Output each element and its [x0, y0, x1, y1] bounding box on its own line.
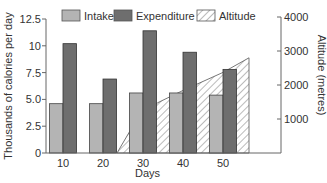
bar-intake — [210, 95, 224, 153]
bar-expenditure — [63, 44, 77, 153]
legend-item-intake: Intake — [62, 10, 114, 22]
bar-group-day-10 — [50, 44, 77, 153]
bar-expenditure — [183, 52, 197, 153]
legend-item-altitude: Altitude — [197, 10, 256, 22]
x-tick-label: 50 — [217, 157, 229, 169]
bar-group-day-30 — [130, 31, 157, 153]
legend-label: Intake — [84, 10, 114, 22]
y-axis-right-title: Altitude (metres) — [316, 35, 327, 116]
y-tick-label: 2.5 — [26, 120, 41, 132]
bar-intake — [170, 93, 184, 153]
chart-canvas: 02.55.07.51012.5100020003000400010203040… — [0, 0, 327, 183]
x-tick-label: 40 — [177, 157, 189, 169]
bar-intake — [90, 104, 104, 153]
bar-group-day-40 — [170, 52, 197, 153]
bar-intake — [130, 93, 144, 153]
bar-expenditure — [223, 69, 237, 153]
y-right-tick-label: 1000 — [284, 113, 308, 125]
bar-expenditure — [143, 31, 157, 153]
y-axis-title: Thousands of calories per day — [2, 12, 14, 160]
legend-swatch — [114, 10, 132, 21]
bar-intake — [50, 104, 64, 153]
y-tick-label: 0 — [35, 147, 41, 159]
legend-swatch — [62, 10, 80, 21]
legend-label: Altitude — [219, 10, 256, 22]
x-tick-label: 20 — [97, 157, 109, 169]
y-right-tick-label: 4000 — [284, 11, 308, 23]
legend-item-expenditure: Expenditure — [114, 10, 195, 22]
y-tick-label: 5.0 — [26, 93, 41, 105]
y-tick-label: 10 — [29, 40, 41, 52]
bar-expenditure — [103, 79, 117, 153]
x-tick-label: 10 — [57, 157, 69, 169]
y-tick-label: 12.5 — [20, 13, 41, 25]
axes: 02.55.07.51012.5100020003000400010203040… — [2, 11, 327, 179]
x-axis-title: Days — [135, 167, 161, 179]
bar-group-day-20 — [90, 79, 117, 153]
y-tick-label: 7.5 — [26, 67, 41, 79]
legend-swatch — [197, 10, 215, 21]
legend-label: Expenditure — [136, 10, 195, 22]
y-right-tick-label: 2000 — [284, 79, 308, 91]
y-right-tick-label: 3000 — [284, 45, 308, 57]
legend: IntakeExpenditureAltitude — [62, 10, 256, 22]
